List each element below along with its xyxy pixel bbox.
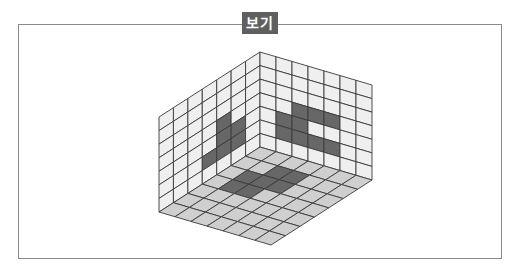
cube-interior-diagram [0,0,520,274]
